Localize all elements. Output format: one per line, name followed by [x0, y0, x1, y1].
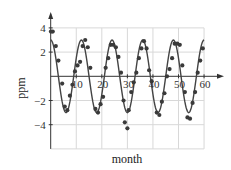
data-point	[65, 108, 69, 112]
data-point	[75, 63, 79, 67]
chart: 10203040506042−2−4 month ppm	[0, 0, 231, 170]
y-axis-arrow-icon	[48, 12, 53, 19]
data-point	[167, 67, 171, 71]
x-tick-label: 60	[200, 78, 212, 90]
data-point	[142, 39, 146, 43]
data-point	[170, 56, 174, 60]
data-point	[162, 91, 166, 95]
y-tick-label: 4	[40, 22, 46, 34]
data-point	[119, 71, 123, 75]
data-point	[180, 63, 184, 67]
data-point	[73, 69, 77, 73]
x-tick-label: 10	[72, 78, 84, 90]
data-point	[101, 95, 105, 99]
data-point	[147, 68, 151, 72]
x-tick-label: 50	[174, 78, 186, 90]
data-point	[160, 100, 164, 104]
data-point	[116, 55, 120, 59]
data-point	[188, 117, 192, 121]
x-tick-label: 40	[148, 78, 160, 90]
data-point	[165, 74, 169, 78]
y-axis-label: ppm	[14, 77, 28, 99]
data-point	[98, 102, 102, 106]
data-point	[183, 90, 187, 94]
data-point	[139, 46, 143, 50]
data-point	[86, 45, 90, 49]
data-point	[196, 71, 200, 75]
data-point	[129, 90, 133, 94]
y-tick-label: −4	[34, 119, 46, 131]
data-point	[157, 113, 161, 117]
data-point	[60, 81, 64, 85]
data-point	[56, 58, 60, 62]
data-point	[123, 120, 127, 124]
data-point	[83, 38, 87, 42]
data-point	[198, 58, 202, 62]
data-point	[104, 66, 108, 70]
data-point	[68, 94, 72, 98]
data-point	[121, 98, 125, 102]
data-point	[93, 107, 97, 111]
data-point	[178, 43, 182, 47]
data-point	[144, 46, 148, 50]
data-point	[193, 90, 197, 94]
data-point	[81, 44, 85, 48]
data-point	[201, 46, 205, 50]
data-point	[114, 45, 118, 49]
data-point	[125, 126, 129, 130]
data-point	[127, 108, 131, 112]
data-point	[51, 29, 55, 33]
x-axis-arrow-icon	[217, 74, 224, 79]
x-tick-label: 30	[123, 78, 135, 90]
data-point	[63, 104, 67, 108]
data-point	[190, 101, 194, 105]
data-point	[88, 66, 92, 70]
y-tick-label: −2	[34, 95, 46, 107]
data-point	[96, 111, 100, 115]
data-point	[106, 56, 110, 60]
data-point	[54, 44, 58, 48]
x-axis-label: month	[112, 152, 143, 166]
y-tick-label: 2	[40, 46, 46, 58]
data-point	[137, 56, 141, 60]
x-tick-label: 20	[97, 78, 109, 90]
data-point	[78, 60, 82, 64]
data-point	[134, 71, 138, 75]
